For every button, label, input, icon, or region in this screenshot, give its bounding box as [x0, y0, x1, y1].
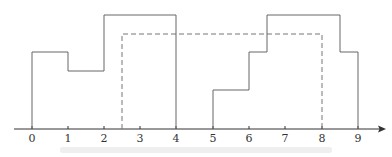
tick-label-0: 0	[29, 132, 36, 145]
solid-step-right	[213, 15, 358, 129]
tick-label-9: 9	[355, 132, 362, 145]
tick-labels: 0 1 2 3 4 5 6 7 8 9	[29, 132, 362, 145]
tick-label-3: 3	[137, 132, 144, 145]
tick-label-7: 7	[282, 132, 289, 145]
dashed-rectangle	[122, 34, 322, 129]
tick-label-6: 6	[246, 132, 253, 145]
tick-label-4: 4	[173, 132, 180, 145]
figure-caption	[60, 147, 332, 153]
tick-label-2: 2	[101, 132, 108, 145]
solid-step-left	[32, 15, 176, 129]
tick-label-1: 1	[65, 132, 72, 145]
tick-label-5: 5	[210, 132, 217, 145]
step-function-diagram: 0 1 2 3 4 5 6 7 8 9	[0, 0, 392, 157]
tick-label-8: 8	[319, 132, 326, 145]
